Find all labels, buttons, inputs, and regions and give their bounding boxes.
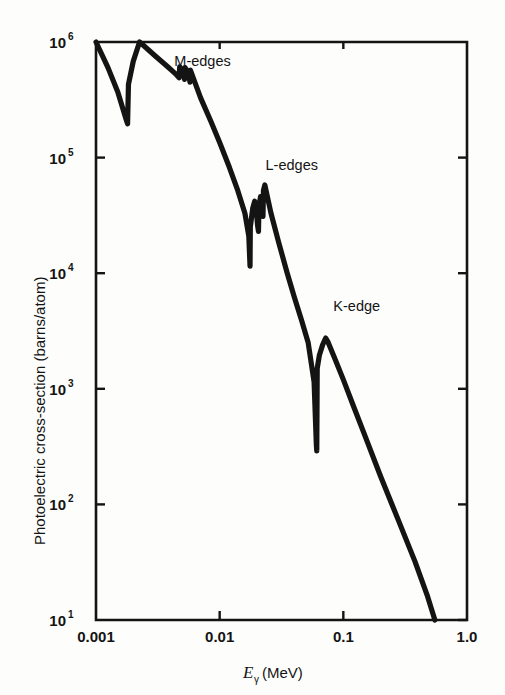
x-axis-symbol: E — [242, 663, 254, 682]
x-tick-labels: 0.0010.010.11.0 — [77, 628, 477, 645]
chart-annotations: M-edgesL-edgesK-edge — [174, 53, 380, 314]
x-tick-label: 0.1 — [333, 628, 354, 645]
y-tick-label-mantissa: 10 — [49, 34, 66, 51]
y-tick-label-exponent: 4 — [68, 262, 74, 273]
y-tick-labels: 101102103104105106 — [49, 31, 74, 629]
plot-frame — [96, 42, 467, 620]
x-tick-label: 0.001 — [77, 628, 115, 645]
y-tick-label-mantissa: 10 — [49, 265, 66, 282]
x-tick-label: 0.01 — [205, 628, 234, 645]
y-tick-label-exponent: 6 — [68, 31, 74, 42]
x-axis-title: E γ (MeV) — [242, 663, 303, 685]
y-tick-label-exponent: 2 — [68, 493, 74, 504]
y-tick-label-exponent: 3 — [68, 378, 74, 389]
x-axis-units: (MeV) — [262, 664, 303, 681]
x-tick-label: 1.0 — [457, 628, 478, 645]
figure-container: 0.0010.010.11.0 101102103104105106 M-edg… — [0, 0, 505, 695]
edge-annotation: L-edges — [266, 157, 318, 173]
y-tick-label-mantissa: 10 — [49, 150, 66, 167]
y-axis-title: Photoelectric cross-section (barns/atom) — [31, 277, 48, 545]
y-tick-label-exponent: 5 — [68, 147, 74, 158]
x-axis-subscript: γ — [254, 674, 259, 685]
y-tick-label-mantissa: 10 — [49, 496, 66, 513]
edge-annotation: M-edges — [174, 53, 230, 69]
photoelectric-cross-section-chart: 0.0010.010.11.0 101102103104105106 M-edg… — [0, 0, 505, 695]
y-tick-label-mantissa: 10 — [49, 612, 66, 629]
y-tick-label-mantissa: 10 — [49, 381, 66, 398]
y-axis-title-text: Photoelectric cross-section (barns/atom) — [31, 277, 48, 545]
axis-frame — [96, 42, 467, 620]
cross-section-curve — [96, 42, 435, 620]
y-tick-label-exponent: 1 — [68, 609, 74, 620]
data-curve — [96, 42, 435, 620]
edge-annotation: K-edge — [333, 298, 380, 314]
axis-ticks — [96, 42, 467, 620]
